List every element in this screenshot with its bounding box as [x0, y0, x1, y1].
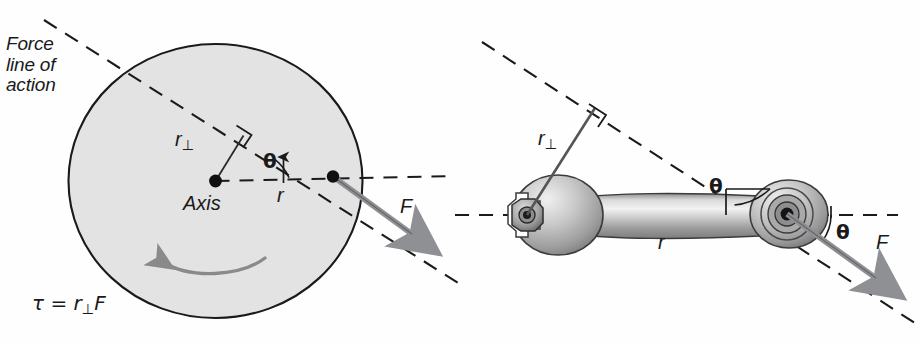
perpendicular-radius-label-left: r⊥ [175, 129, 194, 154]
equation-equals: = [50, 291, 67, 315]
force-label-left: F [400, 196, 412, 218]
equation-force: F [94, 291, 106, 315]
force-label-right: F [876, 232, 888, 254]
angle-label-lower-right: θ [836, 222, 850, 244]
force-line-of-action-label-line2: line of [6, 55, 56, 76]
force-line-of-action-label-line1: Force [6, 34, 56, 55]
perpendicular-radius-label-right: r⊥ [538, 128, 557, 153]
equation-subscript: ⊥ [82, 301, 95, 317]
perpendicular-radius-subscript-left: ⊥ [182, 137, 195, 153]
equation-r: r [74, 291, 82, 315]
equation-tau: τ [32, 291, 44, 315]
perpendicular-radius-subscript-right: ⊥ [545, 136, 558, 152]
pivot-point-icon-left [209, 175, 222, 188]
force-line-of-action-label: Force line of action [6, 34, 56, 96]
force-line-of-action-label-line3: action [6, 75, 56, 96]
wrench-group [508, 175, 828, 255]
radius-label-left: r [277, 185, 284, 207]
angle-label-left: θ [263, 151, 277, 173]
force-application-point-icon-left [327, 170, 339, 182]
torque-equation: τ = r⊥F [32, 293, 106, 318]
radius-label-right: r [658, 232, 665, 254]
figure-canvas [0, 0, 921, 343]
wrench-shaft [575, 194, 772, 239]
angle-label-upper-right: θ [709, 176, 723, 198]
torque-figure: Force line of action r⊥ θ r Axis F τ = r… [0, 0, 921, 343]
perpendicular-radius-symbol-left: r [175, 128, 182, 150]
perpendicular-radius-symbol-right: r [538, 127, 545, 149]
axis-label: Axis [183, 193, 221, 215]
